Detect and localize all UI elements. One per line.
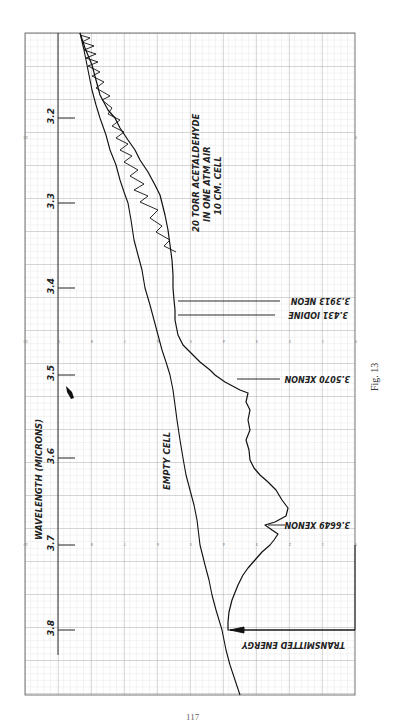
spectrum-chart: 3.2 3.3 3.4 3.5 3.6 3.7 3.8 10 9 8 7 6 5… <box>0 0 396 728</box>
label-transmitted-energy: TRANSMITTED ENERGY <box>241 640 345 649</box>
label-iodine: 3.431 IODINE <box>288 310 348 319</box>
svg-text:10: 10 <box>23 339 28 344</box>
label-xenon-3507: 3.5070 XENON <box>284 374 350 383</box>
label-xenon-36649: 3.6649 XENON <box>284 520 350 529</box>
label-wavelength-axis: WAVELENGTH (MICRONS) <box>34 419 44 540</box>
svg-text:Fig. 13: Fig. 13 <box>369 363 380 391</box>
tick-3-3: 3.3 <box>46 193 56 209</box>
tick-3-8: 3.8 <box>46 620 56 636</box>
label-empty-cell: EMPTY CELL <box>162 432 172 490</box>
graph-paper-grid <box>25 33 355 695</box>
label-acetaldehyde-line1: 20 TORR ACETALDEHYDE <box>191 113 201 232</box>
tick-3-2: 3.2 <box>46 108 56 124</box>
svg-text:10: 10 <box>23 135 28 140</box>
page-number: 117 <box>186 712 199 722</box>
tick-3-6: 3.6 <box>46 448 56 464</box>
label-acetaldehyde-line2: IN ONE ATM AIR <box>202 146 212 222</box>
tick-3-7: 3.7 <box>46 534 56 551</box>
label-acetaldehyde-line3: 10 CM. CELL <box>213 156 223 215</box>
label-neon: 3.3913 NEON <box>290 296 350 305</box>
svg-text:10: 10 <box>23 542 28 547</box>
tick-3-4: 3.4 <box>46 278 56 294</box>
figure-caption: Fig. 13 <box>356 345 396 395</box>
tick-3-5: 3.5 <box>46 365 56 381</box>
